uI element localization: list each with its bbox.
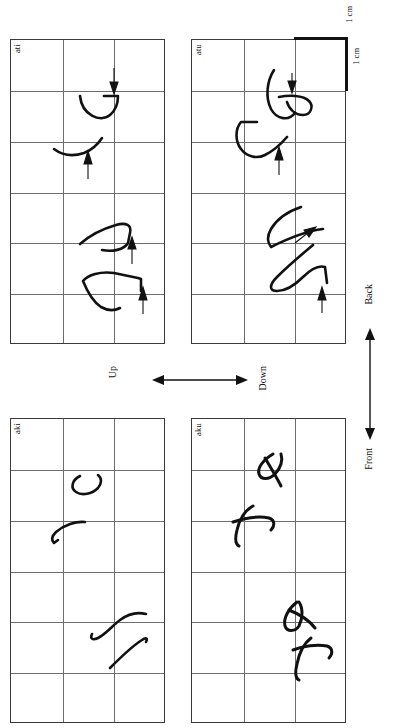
panel-aku-traces — [191, 418, 346, 723]
axis-arrow-up-down — [100, 352, 310, 408]
panel-ati: ati — [10, 39, 165, 344]
scale-label-horizontal: 1 cm — [345, 6, 354, 23]
panel-aki-traces — [10, 418, 165, 723]
axis-arrow-back-front — [354, 282, 394, 512]
axis-back-front: Back Front — [354, 282, 394, 512]
figure-canvas: ati — [0, 0, 399, 728]
panel-atu-traces — [191, 39, 346, 344]
axis-up-down: Up Down — [100, 352, 310, 408]
axis-label-down: Down — [258, 366, 268, 390]
axis-label-front: Front — [364, 448, 374, 470]
panel-ati-traces — [10, 39, 165, 344]
panel-aku: aku — [191, 418, 346, 723]
scale-label-vertical: 1 cm — [352, 48, 361, 65]
panel-atu: atu — [191, 39, 346, 344]
panel-aki: aki — [10, 418, 165, 723]
